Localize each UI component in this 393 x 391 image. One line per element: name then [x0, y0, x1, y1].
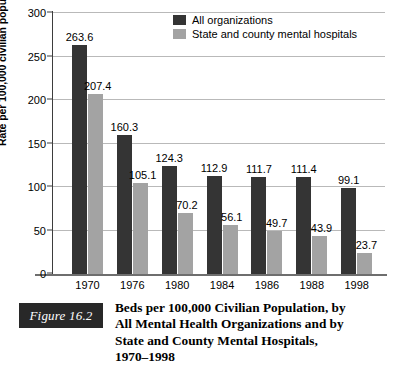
bar-value-label: 111.4 [291, 163, 317, 175]
bar-value-label: 111.7 [246, 163, 272, 175]
x-axis-tick-label: 1986 [255, 279, 279, 291]
bar-value-label: 263.6 [66, 31, 94, 43]
bar: 70.2 [178, 213, 193, 274]
legend-label: All organizations [192, 14, 273, 26]
figure-caption-text: Beds per 100,000 Civilian Population, by… [115, 300, 346, 365]
legend-label: State and county mental hospitals [192, 28, 357, 40]
bar-value-label: 49.7 [266, 217, 287, 229]
y-axis-tick-label: 100 [28, 181, 53, 193]
y-axis-label: Rate per 100,000 civilian population [0, 0, 8, 146]
bar: 124.3 [162, 166, 177, 274]
caption-line: State and County Mental Hospitals, [115, 333, 346, 349]
x-axis-tick-label: 1984 [210, 279, 234, 291]
legend-swatch [173, 29, 186, 39]
y-axis-tick-label: 300 [28, 7, 53, 19]
bar-group: 112.956.1 [207, 13, 238, 274]
y-axis-tick-mark [47, 186, 52, 187]
bar-group: 263.6207.4 [72, 13, 103, 274]
bar-value-label: 23.7 [356, 239, 377, 251]
bar-value-label: 124.3 [155, 152, 183, 164]
bar-value-label: 160.3 [111, 121, 139, 133]
y-axis-tick-label: 0 [40, 268, 53, 280]
bar: 160.3 [117, 135, 132, 274]
legend-item: State and county mental hospitals [173, 27, 357, 40]
bar-value-label: 105.1 [129, 169, 157, 181]
bar-value-label: 207.4 [84, 80, 112, 92]
y-axis-tick-mark [47, 229, 52, 230]
y-axis-tick-mark [47, 55, 52, 56]
x-axis-tick-label: 1976 [120, 279, 144, 291]
figure-number-badge: Figure 16.2 [19, 303, 103, 328]
bar-value-label: 56.1 [221, 211, 242, 223]
bar: 207.4 [88, 94, 103, 274]
bar: 105.1 [133, 183, 148, 274]
y-axis-tick-mark [47, 99, 52, 100]
bar: 112.9 [207, 176, 222, 274]
legend-item: All organizations [173, 13, 357, 26]
bar: 99.1 [341, 188, 356, 274]
bar-group: 111.443.9 [296, 13, 327, 274]
y-axis-tick-label: 200 [28, 94, 53, 106]
bar-group: 99.123.7 [341, 13, 372, 274]
x-axis-line [35, 274, 387, 276]
bar-group: 111.749.7 [251, 13, 282, 274]
bar-value-label: 112.9 [201, 162, 228, 174]
plot-area: 050100150200250300 263.6207.4160.3105.11… [53, 13, 385, 274]
y-axis-tick-label: 250 [28, 51, 53, 63]
y-axis-tick-mark [47, 12, 52, 13]
bar-group: 124.370.2 [162, 13, 193, 274]
figure-container: Rate per 100,000 civilian population 050… [0, 0, 393, 391]
x-axis-tick-label: 1988 [300, 279, 324, 291]
legend: All organizationsState and county mental… [173, 13, 357, 41]
bar-value-label: 43.9 [311, 222, 332, 234]
bar: 43.9 [312, 236, 327, 274]
x-axis-tick-label: 1980 [165, 279, 189, 291]
bar-group: 160.3105.1 [117, 13, 148, 274]
bar: 111.4 [296, 177, 311, 274]
caption-line: All Mental Health Organizations and by [115, 316, 346, 332]
y-axis-tick-mark [47, 142, 52, 143]
bar: 23.7 [357, 253, 372, 274]
bar: 49.7 [267, 231, 282, 274]
y-axis-tick-mark [47, 273, 52, 274]
y-axis-tick-label: 50 [34, 225, 53, 237]
bar: 111.7 [251, 177, 266, 274]
legend-swatch [173, 15, 186, 25]
bar-value-label: 70.2 [176, 199, 197, 211]
caption-line: 1970–1998 [115, 349, 346, 365]
caption-line: Beds per 100,000 Civilian Population, by [115, 300, 346, 316]
x-axis-tick-label: 1998 [344, 279, 368, 291]
x-axis-tick-label: 1970 [75, 279, 99, 291]
bar: 56.1 [223, 225, 238, 274]
bar-value-label: 99.1 [338, 174, 359, 186]
y-axis-tick-label: 150 [28, 138, 53, 150]
figure-caption-block: Figure 16.2 Beds per 100,000 Civilian Po… [19, 303, 384, 365]
